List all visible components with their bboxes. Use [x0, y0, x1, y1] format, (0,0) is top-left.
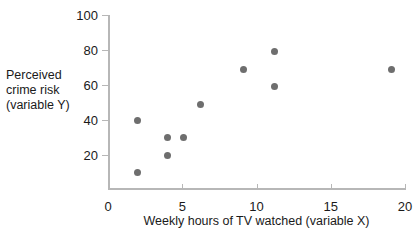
- x-tick-label: 20: [398, 199, 412, 214]
- x-tick-mark: [182, 184, 183, 190]
- y-tick-label: 60: [84, 78, 98, 93]
- y-tick-mark: [102, 85, 108, 86]
- y-tick-label: 80: [84, 43, 98, 58]
- y-tick-mark: [102, 155, 108, 156]
- x-tick-mark: [405, 184, 406, 190]
- data-point: [197, 101, 204, 108]
- y-axis-line: [108, 15, 110, 190]
- data-point: [240, 66, 247, 73]
- data-point: [134, 169, 141, 176]
- y-axis-title-line-3: (variable Y): [6, 98, 102, 113]
- data-point: [388, 66, 395, 73]
- plot-area: 20406080100 05101520: [108, 15, 405, 190]
- data-point: [271, 83, 278, 90]
- x-axis-title: Weekly hours of TV watched (variable X): [108, 214, 405, 228]
- y-tick-mark: [102, 50, 108, 51]
- x-tick-label: 10: [249, 199, 263, 214]
- y-tick-label: 20: [84, 148, 98, 163]
- x-tick-mark: [108, 184, 109, 190]
- y-tick-mark: [102, 15, 108, 16]
- x-tick-mark: [331, 184, 332, 190]
- data-point: [134, 117, 141, 124]
- data-point: [180, 134, 187, 141]
- x-tick-label: 15: [324, 199, 338, 214]
- data-point: [164, 134, 171, 141]
- data-point: [164, 152, 171, 159]
- x-tick-mark: [257, 184, 258, 190]
- x-tick-label: 0: [104, 199, 111, 214]
- y-tick-mark: [102, 120, 108, 121]
- x-tick-label: 5: [179, 199, 186, 214]
- y-tick-label: 100: [76, 8, 98, 23]
- data-point: [271, 48, 278, 55]
- y-tick-label: 40: [84, 113, 98, 128]
- scatter-plot-figure: Perceived crime risk (variable Y) 204060…: [0, 0, 420, 239]
